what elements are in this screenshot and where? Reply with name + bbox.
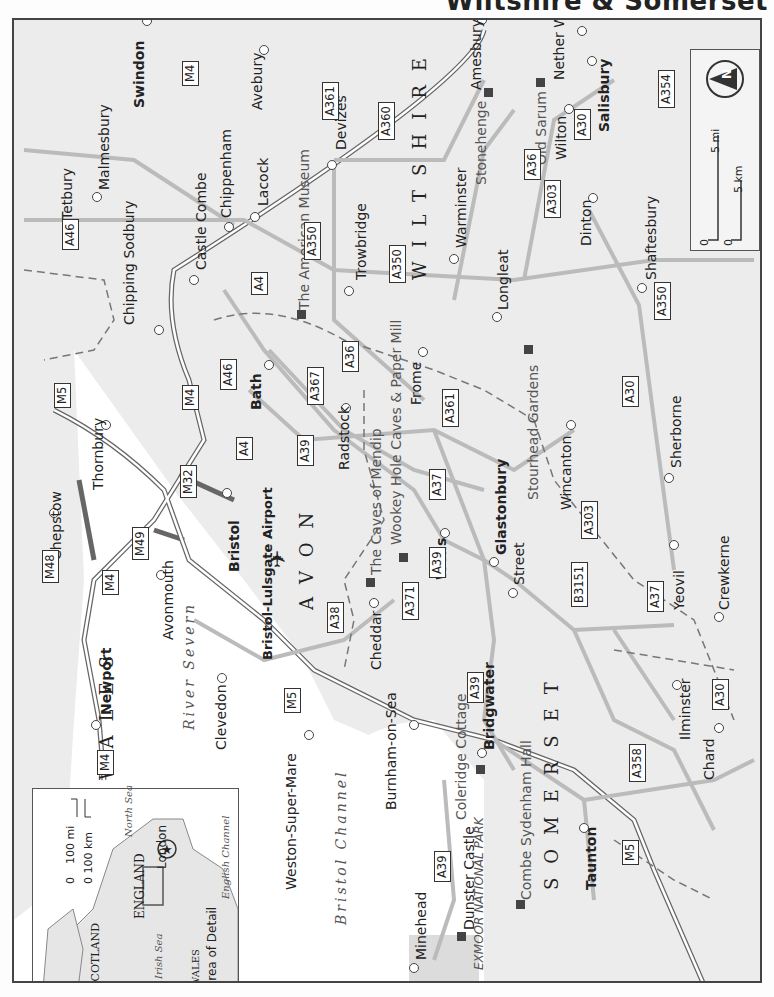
town-marker[interactable]: [304, 730, 314, 740]
town-trowbridge[interactable]: Trowbridge: [354, 203, 369, 280]
town-street[interactable]: Street: [512, 542, 527, 585]
town-wilton[interactable]: Wilton: [554, 116, 569, 160]
road-shield-a37: A37: [429, 469, 446, 500]
town-marker[interactable]: [418, 347, 428, 357]
sight-marker[interactable]: [399, 553, 408, 562]
town-chippenham[interactable]: Chippenham: [219, 129, 234, 218]
sight-combe-sydenham-hall[interactable]: Combe Sydenham Hall: [519, 740, 534, 900]
road-shield-a39: A39: [434, 851, 451, 882]
road-shield-m48: M48: [42, 550, 59, 583]
town-marker[interactable]: [564, 104, 574, 114]
town-dinton[interactable]: Dinton: [579, 200, 594, 246]
road-shield-a303: A303: [544, 180, 561, 218]
sight-stourhead-gardens[interactable]: Stourhead Gardens: [526, 365, 541, 500]
town-marker[interactable]: [369, 598, 379, 608]
scale-miles: 5 mi: [708, 129, 723, 153]
town-lacock[interactable]: Lacock: [256, 158, 271, 206]
town-thornbury[interactable]: Thornbury: [91, 418, 106, 490]
town-marker[interactable]: [637, 283, 647, 293]
town-glastonbury[interactable]: Glastonbury: [494, 459, 509, 555]
town-clevedon[interactable]: Clevedon: [214, 684, 229, 750]
town-marker[interactable]: [91, 720, 101, 730]
sight-stonehenge[interactable]: Stonehenge: [474, 101, 489, 185]
sight-marker[interactable]: [524, 345, 533, 354]
town-swindon[interactable]: Swindon: [132, 41, 147, 108]
town-chard[interactable]: Chard: [702, 738, 717, 780]
town-nether-wallop[interactable]: Nether Wallop: [552, 18, 567, 80]
sight-marker[interactable]: [536, 78, 545, 87]
town-salisbury[interactable]: Salisbury: [597, 59, 612, 132]
town-marker[interactable]: [664, 473, 674, 483]
town-marker[interactable]: [409, 963, 419, 973]
town-burnham-on-sea[interactable]: Burnham-on-Sea: [384, 692, 399, 810]
town-marker[interactable]: [577, 26, 587, 36]
inset-scale-km: 0 100 km: [81, 832, 96, 884]
town-amesbury[interactable]: Amesbury: [469, 19, 484, 90]
town-marker[interactable]: [714, 612, 724, 622]
town-chipping-sodbury[interactable]: Chipping Sodbury: [122, 200, 137, 325]
town-tetbury[interactable]: Tetbury: [60, 168, 75, 220]
town-radstock[interactable]: Radstock: [337, 406, 352, 470]
inset-label-wales: WALES: [188, 949, 203, 983]
town-minehead[interactable]: Minehead: [414, 892, 429, 960]
town-marker[interactable]: [264, 360, 274, 370]
road-shield-a4: A4: [236, 437, 253, 460]
town-warminster[interactable]: Warminster: [454, 167, 469, 248]
town-avonmouth[interactable]: Avonmouth: [161, 560, 176, 640]
region-avon: AVON: [299, 499, 314, 610]
town-bristol[interactable]: Bristol: [227, 520, 242, 572]
town-marker[interactable]: [154, 325, 164, 335]
town-avebury[interactable]: Avebury: [250, 53, 265, 110]
town-crewkerne[interactable]: Crewkerne: [717, 535, 732, 610]
town-bath[interactable]: Bath: [249, 373, 264, 410]
town-marker[interactable]: [92, 192, 102, 202]
sight-marker[interactable]: [484, 88, 493, 97]
town-taunton[interactable]: Taunton: [584, 827, 599, 890]
town-marker[interactable]: [449, 254, 459, 264]
town-castle-combe[interactable]: Castle Combe: [194, 172, 209, 270]
sight-marker[interactable]: [476, 765, 485, 774]
inset-locator-map: ★ 0 100 mi 0 100 km SCOTLAND ENGLAND WAL…: [32, 788, 239, 983]
town-shaftesbury[interactable]: Shaftesbury: [644, 196, 659, 280]
town-marker[interactable]: [489, 557, 499, 567]
town-newport[interactable]: Newport: [99, 648, 114, 715]
region-somerset: SOMERSET: [544, 668, 559, 890]
sight-marker[interactable]: [516, 900, 525, 909]
town-malmesbury[interactable]: Malmesbury: [97, 104, 112, 190]
sight-caves-of-mendip[interactable]: The Caves of Mendip: [369, 428, 384, 575]
town-marker[interactable]: [222, 488, 232, 498]
town-marker[interactable]: [217, 673, 227, 683]
town-cheddar[interactable]: Cheddar: [369, 611, 384, 670]
town-marker[interactable]: [189, 275, 199, 285]
sight-wookey-hole[interactable]: Wookey Hole Caves & Paper Mill: [389, 320, 404, 545]
airport-bristol-lulsgate[interactable]: Bristol-Lulsgate Airport: [260, 487, 275, 660]
town-marker[interactable]: [224, 222, 234, 232]
town-marker[interactable]: [669, 540, 679, 550]
inset-label-irish-sea: Irish Sea: [151, 934, 166, 979]
town-marker[interactable]: [344, 286, 354, 296]
sight-marker[interactable]: [457, 932, 466, 941]
town-longleat[interactable]: Longleat: [496, 250, 511, 310]
town-weston-super-mare[interactable]: Weston-Super-Mare: [284, 753, 299, 890]
town-sherborne[interactable]: Sherborne: [669, 395, 684, 468]
map-frame[interactable]: WALES AVON WILTSHIRE SOMERSET River Seve…: [12, 18, 762, 983]
road-shield-a30: A30: [712, 679, 729, 710]
town-frome[interactable]: Frome: [409, 362, 424, 405]
town-marker[interactable]: [250, 212, 260, 222]
town-marker[interactable]: [566, 420, 576, 430]
road-shield-a39: A39: [467, 672, 484, 703]
town-marker[interactable]: [714, 723, 724, 733]
town-marker[interactable]: [508, 588, 518, 598]
town-ilminster[interactable]: Ilminster: [678, 678, 693, 740]
town-wincanton[interactable]: Wincanton: [559, 436, 574, 510]
town-marker[interactable]: [492, 312, 502, 322]
sight-marker[interactable]: [297, 310, 306, 319]
town-yeovil[interactable]: Yeovil: [672, 570, 687, 610]
town-marker[interactable]: [327, 160, 337, 170]
town-marker[interactable]: [409, 720, 419, 730]
town-marker[interactable]: [440, 528, 450, 538]
town-bridgwater[interactable]: Bridgwater: [482, 662, 497, 750]
road-shield-a38: A38: [327, 602, 344, 633]
sight-coleridge-cottage[interactable]: Coleridge Cottage: [454, 693, 469, 820]
sight-marker[interactable]: [366, 578, 375, 587]
